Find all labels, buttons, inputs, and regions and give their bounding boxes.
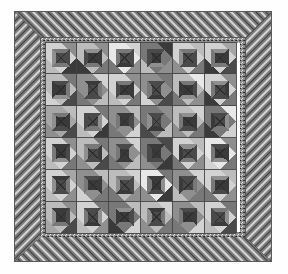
quilt-illustration [0, 0, 288, 274]
quilt-block [204, 201, 236, 233]
quilt-block [172, 138, 204, 170]
quilt-block [45, 138, 77, 170]
border-bottom [14, 233, 272, 262]
quilt-block [77, 201, 109, 233]
quilt-block [45, 169, 77, 201]
quilt-block [109, 201, 141, 233]
quilt-block [204, 74, 236, 106]
quilt-block [172, 201, 204, 233]
quilt-block [204, 106, 236, 138]
quilt-block [77, 138, 109, 170]
image-canvas: Square-in-a-Square X-Block Sampler Quilt… [0, 0, 288, 274]
quilt-block [109, 138, 141, 170]
quilt-block [45, 42, 77, 74]
quilt-block [141, 42, 173, 74]
quilt-block [141, 169, 173, 201]
quilt-block [141, 201, 173, 233]
quilt-block [109, 106, 141, 138]
quilt-block [141, 74, 173, 106]
quilt-block [77, 169, 109, 201]
quilt-block [45, 106, 77, 138]
quilt-body [14, 11, 272, 262]
quilt-block [109, 169, 141, 201]
quilt-block [172, 106, 204, 138]
quilt-block [204, 169, 236, 201]
quilt-block [172, 74, 204, 106]
quilt-block [45, 74, 77, 106]
quilt-block [204, 138, 236, 170]
quilt-block [45, 201, 77, 233]
quilt-block [77, 106, 109, 138]
quilt-block [141, 138, 173, 170]
quilt-block [172, 169, 204, 201]
quilt-block [109, 42, 141, 74]
quilt-block [77, 74, 109, 106]
quilt-block [109, 74, 141, 106]
quilt-block [172, 42, 204, 74]
quilt-block [77, 42, 109, 74]
quilt-block [204, 42, 236, 74]
quilt-block [141, 106, 173, 138]
